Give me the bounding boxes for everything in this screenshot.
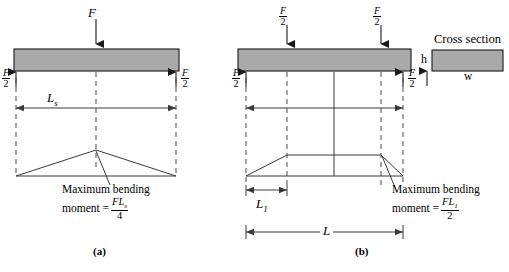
panel-b-right-load-den: 2 xyxy=(373,17,381,27)
panel-b-right-reaction-den: 2 xyxy=(408,79,416,89)
cross-section-height-label: h xyxy=(421,53,427,65)
panel-a-moment-note-line2: moment = xyxy=(62,202,109,216)
panel-b-left-load-label: F 2 xyxy=(279,6,287,27)
panel-b-moment-den: 2 xyxy=(441,211,459,222)
panel-a-leader-line xyxy=(96,151,110,185)
panel-b-outer-span-label: L xyxy=(320,224,333,237)
panel-a-load-label: F xyxy=(88,6,96,19)
panel-b-left-reaction-den: 2 xyxy=(232,79,240,89)
panel-a-moment-note: Maximum bending moment = FLs 4 xyxy=(62,183,150,221)
panel-b-moment-note-line2: moment = xyxy=(392,202,439,216)
panel-a-left-reaction-label: F 2 xyxy=(2,68,10,89)
panel-b-moment-fraction: FL1 2 xyxy=(441,197,459,222)
panel-b-right-load-label: F 2 xyxy=(373,6,381,27)
panel-a-moment-fraction: FLs 4 xyxy=(111,197,128,222)
panel-a-moment-num-sub: s xyxy=(124,202,127,210)
panel-b-moment-trapezoid xyxy=(246,155,403,176)
panel-a-moment-num: FL xyxy=(112,196,124,207)
panel-b-moment-num-sub: 1 xyxy=(454,202,458,210)
panel-b-projection-lines xyxy=(246,72,403,185)
panel-b-leader-line xyxy=(382,156,394,185)
panel-a-span-label: Ls xyxy=(47,91,58,107)
panel-a-left-reaction-den: 2 xyxy=(2,79,10,89)
panel-b-moment-num: FL xyxy=(442,196,454,207)
panel-b-left-reaction-label: F 2 xyxy=(232,68,240,89)
panel-b-caption: (b) xyxy=(355,246,368,257)
panel-a-moment-den: 4 xyxy=(111,211,128,222)
figure-canvas: F F 2 F 2 Ls Maximum bending moment = FL… xyxy=(0,0,509,272)
panel-a-right-reaction-den: 2 xyxy=(181,79,189,89)
panel-b-load-arrows xyxy=(287,25,381,44)
cross-section-width-label: w xyxy=(464,71,472,83)
panel-b-L1-dimension xyxy=(246,185,287,196)
cross-section-rect xyxy=(432,50,503,71)
panel-a-moment-equation: moment = FLs 4 xyxy=(62,197,150,222)
panel-a-right-reaction-label: F 2 xyxy=(181,68,189,89)
panel-a-span-label-sub: s xyxy=(54,98,57,108)
panel-b-left-load-den: 2 xyxy=(279,17,287,27)
panel-a-projection-lines xyxy=(16,72,176,176)
panel-a-caption: (a) xyxy=(93,246,106,257)
panel-b-right-reaction-label: F 2 xyxy=(408,68,416,89)
cross-section-title: Cross section xyxy=(434,33,501,46)
panel-b-moment-note-line1: Maximum bending xyxy=(392,183,480,197)
panel-b-inner-span-label: L1 xyxy=(256,197,268,213)
diagram-vector-layer xyxy=(0,0,509,272)
panel-b-moment-equation: moment = FL1 2 xyxy=(392,197,480,222)
panel-b-beam xyxy=(238,49,411,71)
panel-a-beam xyxy=(14,49,179,71)
panel-b-moment-note: Maximum bending moment = FL1 2 xyxy=(392,183,480,221)
panel-a-moment-note-line1: Maximum bending xyxy=(62,183,150,197)
panel-b-reaction-arrows xyxy=(246,72,403,87)
panel-b-inner-span-sub: 1 xyxy=(263,204,267,214)
